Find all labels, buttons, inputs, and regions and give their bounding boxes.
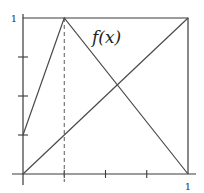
function-diagram: 1 1 f(x)	[0, 0, 204, 193]
y-axis-top-label: 1	[11, 13, 17, 24]
function-label: f(x)	[90, 27, 121, 47]
x-axis-end-label: 1	[185, 181, 191, 192]
